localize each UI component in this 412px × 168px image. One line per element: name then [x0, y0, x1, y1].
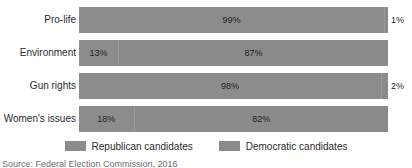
stacked-bar-chart: Pro-life 99% 1% 1% Environment 13% 87% — [0, 0, 412, 168]
segment-value-republican: 98% — [221, 82, 239, 91]
bar-segment-republican[interactable]: 13% — [79, 40, 119, 66]
category-label-pro-life: Pro-life — [0, 7, 76, 33]
chart-row: Women's issues 18% 82% — [0, 106, 412, 132]
segment-value-democratic: 87% — [245, 49, 263, 58]
bar-track[interactable]: 13% 87% — [79, 40, 388, 66]
bar-segment-republican[interactable]: 18% — [79, 106, 135, 132]
chart-row: Gun rights 98% 2% 2% — [0, 73, 412, 99]
category-label-environment: Environment — [0, 40, 76, 66]
legend-label-republican: Republican candidates — [92, 141, 193, 152]
segment-value-democratic-outside: 2% — [391, 73, 404, 99]
chart-row: Environment 13% 87% — [0, 40, 412, 66]
legend-swatch-icon-democratic — [219, 141, 240, 151]
segment-value-democratic: 82% — [252, 115, 270, 124]
legend-label-democratic: Democratic candidates — [246, 141, 348, 152]
bar-segment-democratic[interactable]: 2% — [382, 73, 388, 99]
legend-item-republican[interactable]: Republican candidates — [65, 141, 193, 152]
segment-value-republican: 18% — [97, 115, 115, 124]
plot-area: Pro-life 99% 1% 1% Environment 13% 87% — [0, 4, 412, 134]
chart-legend: Republican candidates Democratic candida… — [0, 139, 412, 153]
legend-item-democratic[interactable]: Democratic candidates — [219, 141, 348, 152]
segment-value-democratic-outside: 1% — [391, 7, 404, 33]
bar-track[interactable]: 98% 2% — [79, 73, 388, 99]
bar-track[interactable]: 18% 82% — [79, 106, 388, 132]
segment-value-republican: 13% — [90, 49, 108, 58]
bar-segment-republican[interactable]: 99% — [79, 7, 385, 33]
bar-segment-democratic[interactable]: 87% — [119, 40, 388, 66]
bar-track[interactable]: 99% 1% — [79, 7, 388, 33]
bar-segment-democratic[interactable]: 1% — [385, 7, 388, 33]
bar-segment-democratic[interactable]: 82% — [135, 106, 388, 132]
segment-value-republican: 99% — [222, 16, 240, 25]
legend-swatch-icon-republican — [65, 141, 86, 151]
bar-segment-republican[interactable]: 98% — [79, 73, 382, 99]
category-label-gun-rights: Gun rights — [0, 73, 76, 99]
category-label-womens-issues: Women's issues — [0, 106, 76, 132]
source-note: Source: Federal Election Commission, 201… — [2, 159, 178, 168]
chart-row: Pro-life 99% 1% 1% — [0, 7, 412, 33]
